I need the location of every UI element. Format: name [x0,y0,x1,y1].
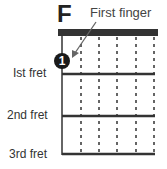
finger-number: 1 [54,53,70,69]
callout-arrow [75,22,96,53]
nut-bar [58,29,158,36]
fretboard-diagram [0,0,167,169]
